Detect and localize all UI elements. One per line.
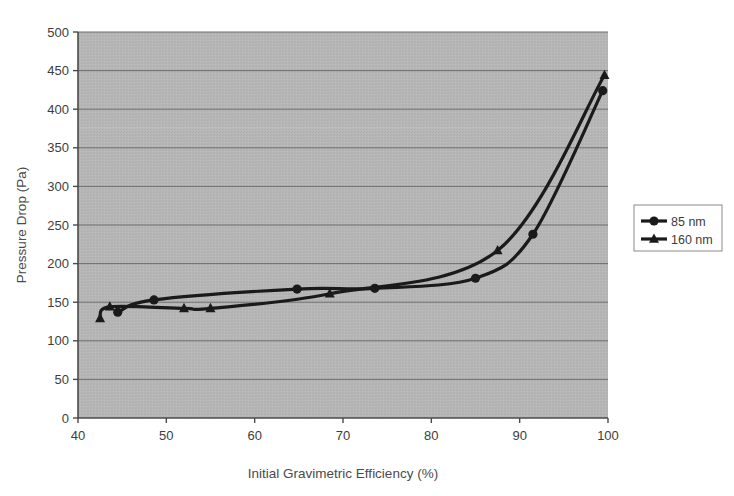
x-tick-label: 90 (512, 428, 526, 443)
data-point-marker-circle (471, 274, 480, 283)
y-tick-label: 400 (47, 102, 69, 117)
plot-area (78, 32, 609, 418)
y-tick-label: 350 (47, 140, 69, 155)
y-tick-label: 100 (47, 333, 69, 348)
y-tick-label: 200 (47, 256, 69, 271)
legend-item-label: 85 nm (671, 215, 706, 229)
y-tick-label: 300 (47, 179, 69, 194)
pressure-drop-vs-efficiency-chart: 050100150200250300350400450500 405060708… (0, 0, 734, 496)
y-tick-label: 500 (47, 25, 69, 40)
y-tick-label: 150 (47, 295, 69, 310)
data-point-marker-circle (528, 230, 537, 239)
y-tick-label: 450 (47, 63, 69, 78)
x-tick-label: 60 (247, 428, 261, 443)
legend-item-label: 160 nm (671, 233, 713, 247)
data-point-marker-circle (649, 216, 658, 225)
y-tick-label: 250 (47, 218, 69, 233)
y-tick-label: 0 (62, 411, 69, 426)
chart-figure: 050100150200250300350400450500 405060708… (0, 0, 734, 496)
legend: 85 nm160 nm (634, 205, 722, 251)
x-tick-label: 40 (71, 428, 85, 443)
x-tick-label: 100 (597, 428, 619, 443)
y-tick-label: 50 (55, 372, 69, 387)
data-point-marker-circle (292, 284, 301, 293)
x-axis-title: Initial Gravimetric Efficiency (%) (248, 466, 438, 481)
x-tick-label: 80 (424, 428, 438, 443)
y-axis-title: Pressure Drop (Pa) (14, 167, 29, 283)
data-point-marker-circle (149, 295, 158, 304)
data-point-marker-circle (113, 308, 122, 317)
x-tick-label: 50 (159, 428, 173, 443)
x-tick-label: 70 (336, 428, 350, 443)
